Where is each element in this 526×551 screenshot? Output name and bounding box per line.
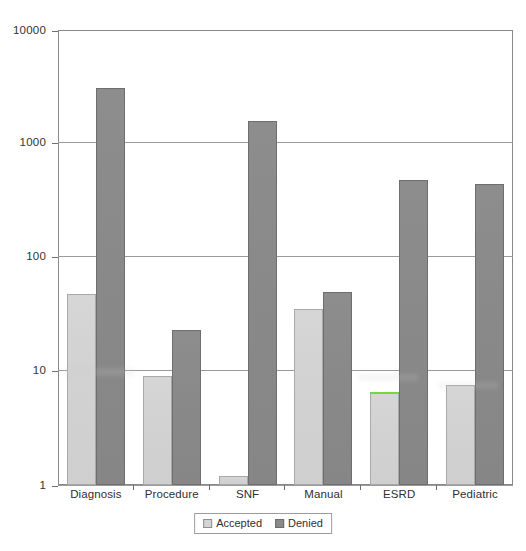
x-axis-tick-label: Pediatric — [437, 488, 513, 500]
bar-group — [210, 30, 286, 485]
plot-area — [58, 30, 513, 485]
bar-group — [134, 30, 210, 485]
y-axis-tick-label: 1 — [39, 479, 46, 491]
x-axis-tick-label: Diagnosis — [58, 488, 134, 500]
bar-accepted — [294, 309, 323, 485]
bar-group — [361, 30, 437, 485]
gridline-1 — [58, 485, 513, 486]
bar-denied — [96, 88, 125, 485]
y-axis-tick-label: 1000 — [20, 136, 46, 148]
bar-denied — [323, 292, 352, 485]
legend-item-accepted: Accepted — [203, 517, 262, 529]
bar-group — [437, 30, 513, 485]
bar-accepted — [446, 385, 475, 485]
bar-denied — [399, 180, 428, 485]
y-axis-tick-label: 100 — [26, 250, 46, 262]
x-axis-tick-label: Manual — [285, 488, 361, 500]
bar-accepted — [370, 392, 399, 485]
y-axis-tick-labels: 10000 1000 100 10 1 — [0, 30, 52, 485]
bar-group — [285, 30, 361, 485]
x-axis-tick-labels: Diagnosis Procedure SNF Manual ESRD Pedi… — [58, 488, 513, 500]
bar-accepted — [143, 376, 172, 485]
bar-group — [58, 30, 134, 485]
bar-denied — [172, 330, 201, 485]
x-axis-tick-label: Procedure — [134, 488, 210, 500]
legend-label: Denied — [288, 517, 323, 529]
legend-swatch-icon — [203, 519, 212, 528]
bar-chart: 10000 1000 100 10 1 — [0, 0, 526, 551]
chart-legend: Accepted Denied — [194, 513, 332, 534]
bar-denied — [248, 121, 277, 485]
bar-accepted — [219, 476, 248, 485]
legend-swatch-icon — [275, 519, 284, 528]
x-axis-tick-label: SNF — [210, 488, 286, 500]
x-axis-tick-label: ESRD — [361, 488, 437, 500]
bar-accepted — [67, 294, 96, 485]
bar-denied — [475, 184, 504, 485]
y-axis-tick-label: 10000 — [13, 24, 46, 36]
legend-label: Accepted — [216, 517, 262, 529]
y-axis-tick-label: 10 — [33, 364, 46, 376]
legend-item-denied: Denied — [275, 517, 323, 529]
bar-groups — [58, 30, 513, 485]
